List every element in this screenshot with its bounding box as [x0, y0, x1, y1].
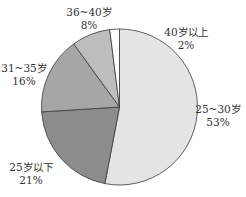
label-36-40-name: 36~40岁: [66, 6, 112, 19]
label-36-40-pct: 8%: [66, 19, 112, 32]
label-under-25-name: 25岁以下: [9, 161, 52, 174]
label-31-35-name: 31~35岁: [1, 62, 47, 75]
label-under-25: 25岁以下 21%: [9, 161, 52, 187]
label-25-30-pct: 53%: [195, 116, 241, 129]
pie-slices: [41, 29, 197, 185]
label-25-30-name: 25~30岁: [195, 103, 241, 116]
label-over-40-name: 40岁以上: [164, 26, 207, 39]
label-over-40-pct: 2%: [164, 39, 207, 52]
label-31-35: 31~35岁 16%: [1, 62, 47, 88]
label-under-25-pct: 21%: [9, 174, 52, 187]
label-31-35-pct: 16%: [1, 75, 47, 88]
label-over-40: 40岁以上 2%: [164, 26, 207, 52]
label-36-40: 36~40岁 8%: [66, 6, 112, 32]
label-25-30: 25~30岁 53%: [195, 103, 241, 129]
